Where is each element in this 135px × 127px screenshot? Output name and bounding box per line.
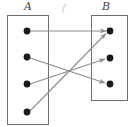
- function-mapping-diagram: A B f: [0, 0, 135, 127]
- node-b1: [107, 28, 114, 35]
- set-label-a: A: [24, 1, 32, 12]
- arrow-a4-b1: [30, 34, 106, 112]
- set-label-b: B: [102, 1, 110, 12]
- arrow-a2-b3: [30, 58, 105, 83]
- arrow-group: [30, 31, 106, 111]
- domain-node-group: [24, 28, 31, 116]
- diagram-canvas: [0, 0, 135, 127]
- node-a1: [24, 28, 31, 35]
- node-a3: [24, 81, 31, 88]
- map-label-f: f: [62, 3, 66, 13]
- node-a2: [24, 54, 31, 61]
- codomain-node-group: [107, 28, 114, 88]
- node-b3: [107, 81, 114, 88]
- node-a4: [24, 109, 31, 116]
- node-b2: [107, 55, 114, 62]
- arrow-a3-b2: [30, 59, 105, 84]
